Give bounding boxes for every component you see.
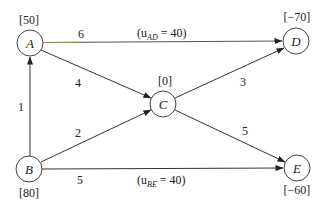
node-d: D — [283, 28, 309, 54]
supply-c: [0] — [158, 74, 172, 88]
node-c: C — [150, 91, 176, 117]
node-e-label: E — [292, 161, 301, 176]
edge-b-c — [41, 110, 151, 162]
cost-c-d: 3 — [240, 75, 246, 89]
supply-a: [50] — [19, 13, 39, 27]
supply-e: [−60] — [284, 183, 311, 197]
node-b: B — [16, 156, 42, 182]
node-a: A — [17, 30, 43, 56]
cost-a-c: 4 — [75, 76, 81, 90]
edge-c-e — [175, 110, 285, 162]
edge-b-e — [42, 168, 283, 169]
cost-b-e: 5 — [77, 173, 83, 187]
supply-b: [80] — [19, 186, 39, 200]
node-c-label: C — [159, 97, 168, 112]
cost-a-d: 6 — [78, 27, 84, 41]
capacity-a-d: (uAD = 40) — [137, 26, 186, 42]
edge-a-c — [41, 50, 151, 98]
edge-c-d — [175, 48, 284, 98]
node-b-label: B — [25, 162, 33, 177]
supply-d: [−70] — [284, 10, 311, 24]
node-d-label: D — [290, 34, 301, 49]
cost-b-c: 2 — [75, 126, 81, 140]
network-diagram: A B C D E [50] [80] [0] [−70] [−60] 6 4 … — [0, 0, 330, 202]
node-e: E — [284, 155, 310, 181]
cost-b-a: 1 — [18, 100, 24, 114]
node-a-label: A — [25, 36, 34, 51]
capacity-b-e: (uBE = 40) — [137, 173, 186, 189]
cost-c-e: 5 — [242, 124, 248, 138]
